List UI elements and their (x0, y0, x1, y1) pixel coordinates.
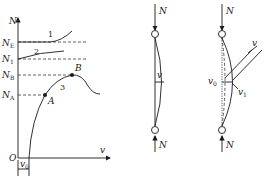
svg-text:NB: NB (1, 70, 15, 81)
v-label: v (252, 38, 257, 48)
x-axis-label: v (100, 145, 105, 155)
curve-3-label: 3 (60, 83, 65, 92)
v0-label: v0 (208, 76, 217, 87)
top-hinge (219, 31, 226, 38)
y-axis-label: N (8, 16, 18, 26)
diagram-canvas: N v O NE N1 NB NA 1 2 3 A B (0, 0, 265, 178)
svg-text:NA: NA (1, 90, 15, 101)
curve-1-label: 1 (48, 30, 53, 39)
curve-2 (18, 51, 64, 59)
bottom-force-label: N (158, 140, 168, 150)
bottom-hinge (219, 127, 226, 134)
bottom-hinge (152, 127, 159, 134)
top-force-label: N (225, 6, 235, 16)
curve-2-label: 2 (34, 47, 39, 56)
svg-text:N1: N1 (1, 54, 14, 65)
bottom-force-label: N (225, 140, 235, 150)
curve-1 (18, 31, 72, 42)
point-A (43, 93, 47, 97)
point-B (70, 73, 74, 77)
v0-label: v0 (20, 159, 29, 170)
imperfect-column: N v v0 v1 N (208, 4, 262, 152)
deflection-label: v (157, 70, 162, 80)
top-hinge (152, 31, 159, 38)
load-deflection-graph: N v O NE N1 NB NA 1 2 3 A B (1, 16, 110, 176)
top-force-label: N (158, 6, 168, 16)
level-NE: NE (1, 38, 88, 49)
point-A-label: A (47, 96, 55, 106)
v1-label: v1 (238, 87, 247, 98)
straight-column: N v N (152, 4, 169, 152)
origin-label: O (9, 153, 17, 163)
svg-text:NE: NE (1, 38, 14, 49)
point-B-label: B (74, 63, 82, 73)
level-NA: NA (1, 90, 45, 101)
